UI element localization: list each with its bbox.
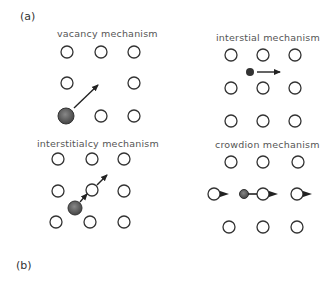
crowdion-arrows-icon [220,191,312,197]
interstitial-lattice [225,49,301,127]
vacancy-arrow-icon [74,85,98,108]
interstitial-atom [246,68,254,76]
diffusion-diagram [0,0,330,283]
interstitialcy-arrow-2-icon [97,175,107,185]
interstitialcy-lattice [50,153,130,228]
vacancy-lattice [61,46,140,122]
interstitialcy-arrow-1-icon [80,194,87,202]
interstitialcy-atom [68,201,82,215]
crowdion-atom [240,190,249,199]
vacancy-moving-atom [58,108,74,124]
